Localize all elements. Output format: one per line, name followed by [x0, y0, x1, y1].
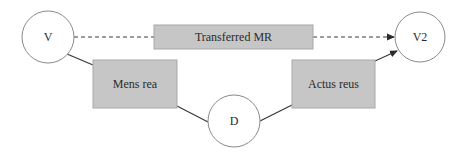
node-mens-rea: Mens rea [93, 60, 177, 108]
node-v-label: V [44, 30, 53, 44]
node-actus-reus: Actus reus [292, 60, 375, 108]
node-d-label: D [230, 114, 239, 128]
edge-mens-rea-to-d [177, 106, 208, 122]
node-v2: V2 [395, 12, 445, 62]
edge-v-to-mens-rea [67, 54, 93, 65]
node-v: V [22, 11, 74, 63]
node-transferred-mr: Transferred MR [154, 25, 313, 49]
edge-d-to-actus-reus [260, 105, 292, 121]
node-actus-reus-label: Actus reus [308, 77, 359, 91]
node-v2-label: V2 [413, 30, 428, 44]
transferred-malice-diagram: V V2 D Transferred MR Mens rea Actus reu… [0, 0, 466, 158]
node-transferred-mr-label: Transferred MR [195, 30, 272, 44]
node-mens-rea-label: Mens rea [113, 77, 158, 91]
edge-actus-reus-to-v2 [375, 51, 397, 61]
node-d: D [208, 95, 260, 147]
